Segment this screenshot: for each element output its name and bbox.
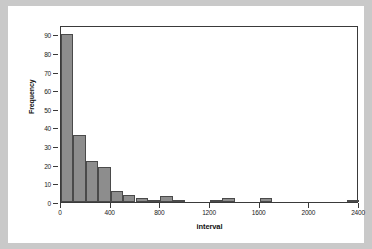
x-tick-label: 0 [58,209,61,216]
y-tick-label: 60 [44,88,51,95]
y-tick-mark [53,54,58,55]
histogram-bar [148,200,160,202]
x-tick-mark [60,203,61,208]
y-tick-mark [53,203,58,204]
x-tick-mark [358,203,359,208]
x-tick-label: 2000 [301,209,315,216]
x-tick-mark [110,203,111,208]
x-tick-label: 2400 [351,209,365,216]
y-tick-mark [53,147,58,148]
histogram-bar [98,167,110,202]
histogram-bar [210,200,222,202]
y-tick-label: 0 [48,200,51,207]
plot-area [60,26,358,203]
x-axis-title: interval [60,222,359,231]
histogram-bar [123,195,135,202]
figure: Frequency 0102030405060708090 interval 0… [8,6,364,243]
x-tick-mark [259,203,260,208]
histogram-bar [73,135,85,202]
histogram-bar [86,161,98,202]
y-tick-label: 20 [44,162,51,169]
y-tick-label: 40 [44,125,51,132]
bars-layer [61,27,357,202]
x-tick-label: 800 [154,209,164,216]
x-tick-label: 1200 [202,209,216,216]
y-tick-label: 30 [44,144,51,151]
y-tick-mark [53,91,58,92]
y-tick-label: 50 [44,106,51,113]
x-axis: interval 04008001200160020002400 [60,203,359,243]
histogram-bar [260,198,272,202]
y-tick-label: 70 [44,69,51,76]
y-tick-mark [53,35,58,36]
histogram-bar [222,198,234,202]
y-axis-title: Frequency [28,80,35,115]
y-tick-mark [53,184,58,185]
x-tick-mark [159,203,160,208]
histogram-bar [136,198,148,202]
y-tick-mark [53,128,58,129]
histogram-bar [173,200,185,202]
y-tick-label: 10 [44,181,51,188]
x-tick-label: 400 [105,209,115,216]
histogram-bar [160,196,172,202]
y-tick-label: 80 [44,50,51,57]
histogram-bar [61,34,73,202]
x-tick-mark [209,203,210,208]
y-tick-label: 90 [44,32,51,39]
histogram-bar [347,200,359,202]
y-tick-mark [53,110,58,111]
y-axis: Frequency 0102030405060708090 [8,6,60,204]
x-tick-mark [308,203,309,208]
histogram-bar [111,191,123,202]
y-tick-mark [53,73,58,74]
y-tick-mark [53,166,58,167]
x-tick-label: 1600 [252,209,266,216]
